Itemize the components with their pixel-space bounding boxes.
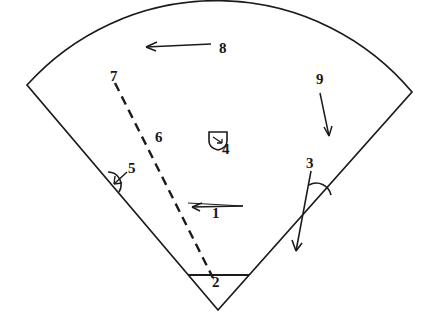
diagram-canvas: 1 2 3 4 5 6 7 8 9 [0, 0, 436, 326]
callout-label-3: 3 [306, 156, 314, 171]
callout-label-6: 6 [155, 130, 163, 145]
dashed-radial-line [115, 83, 213, 278]
callout-3-arrow [292, 171, 311, 251]
callout-label-4: 4 [222, 142, 230, 157]
callout-label-2: 2 [212, 275, 220, 290]
callout-9-arrow [320, 93, 332, 136]
callout-3-angle-arc [309, 183, 331, 195]
callout-label-8: 8 [219, 41, 227, 56]
callout-label-1: 1 [212, 206, 220, 221]
callout-8-arrow [146, 42, 211, 51]
callout-5-angle-arc [108, 172, 127, 192]
callout-label-5: 5 [128, 161, 136, 176]
callout-label-7: 7 [110, 69, 118, 84]
callout-label-9: 9 [316, 72, 324, 87]
